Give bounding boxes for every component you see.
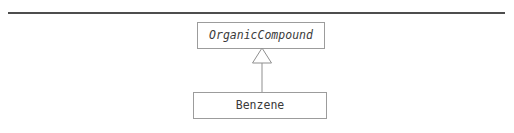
diagram-canvas: OrganicCompound Benzene [0,0,514,133]
horizontal-rule [8,12,505,14]
generalization-arrow-icon [248,46,276,94]
hollow-triangle-arrowhead [253,48,272,63]
class-box-organiccompound[interactable]: OrganicCompound [197,22,325,49]
generalization-connector [248,46,276,94]
class-name-benzene: Benzene [236,100,284,112]
class-name-organiccompound: OrganicCompound [209,30,313,42]
class-box-benzene[interactable]: Benzene [193,92,327,119]
